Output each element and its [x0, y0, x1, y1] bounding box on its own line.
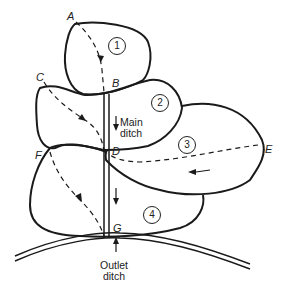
point-label-b: B	[112, 78, 119, 89]
main-ditch-label: Main ditch	[120, 117, 143, 139]
point-label-c: C	[36, 72, 44, 83]
point-label-f: F	[35, 150, 42, 161]
outlet-ditch-label: Outlet ditch	[100, 260, 128, 282]
point-label-d: D	[112, 146, 120, 157]
field-number-3: 3	[178, 136, 196, 154]
field-drainage-diagram	[0, 0, 281, 292]
field-number-4: 4	[143, 206, 161, 224]
point-label-g: G	[113, 223, 122, 234]
arrow-f-g-icon	[75, 193, 82, 202]
flow-path-f-g	[50, 152, 104, 236]
field-number-2: 2	[151, 94, 169, 112]
point-label-a: A	[67, 11, 74, 22]
arrow-a-b-icon	[97, 55, 104, 62]
field-number-1: 1	[108, 37, 126, 55]
arrow-e-d-icon	[188, 169, 196, 175]
point-label-e: E	[265, 144, 272, 155]
arrow-c-d-icon	[78, 114, 86, 121]
